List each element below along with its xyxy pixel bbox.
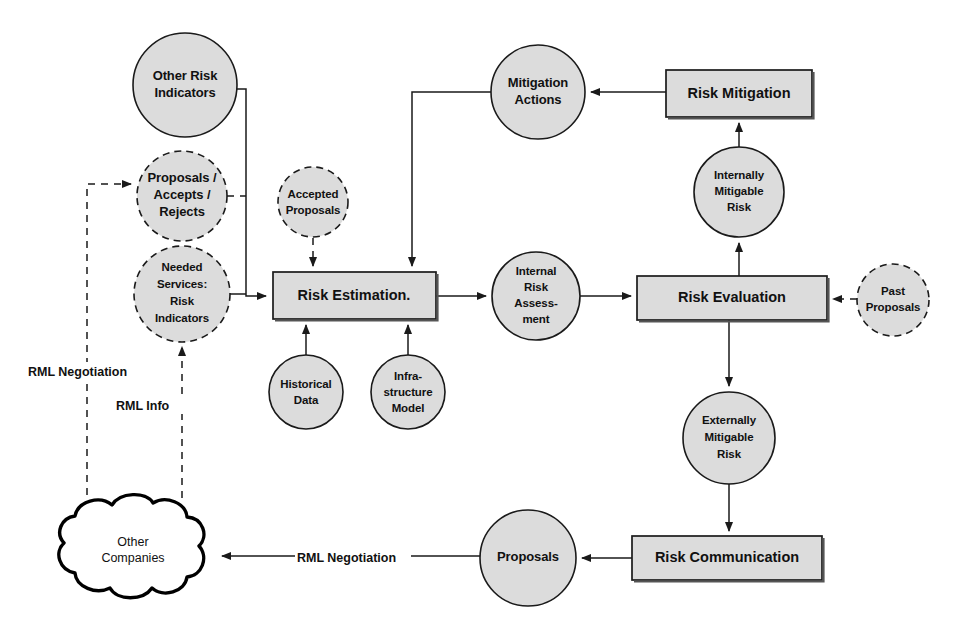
proposals-label: Proposals xyxy=(497,549,559,564)
proposals-accepts-rejects-label-line-2: Accepts / xyxy=(154,187,211,202)
node-risk-estimation[interactable]: Risk Estimation. xyxy=(273,272,438,321)
accepted-proposals-label-line-1: Accepted xyxy=(288,188,339,200)
rml-negotiation-left-label: RML Negotiation xyxy=(28,365,127,379)
needed-services-label-line-2: Services: xyxy=(157,278,207,290)
mitigation-actions-label-line-2: Actions xyxy=(515,92,562,107)
other-companies-label-line-1: Other xyxy=(117,535,148,549)
risk-evaluation-label: Risk Evaluation xyxy=(678,289,786,305)
historical-data-label-line-1: Historical xyxy=(280,378,331,390)
risk-mitigation-label: Risk Mitigation xyxy=(687,85,790,101)
node-needed-services-risk-indicators[interactable]: Needed Services: Risk Indicators xyxy=(134,246,230,342)
needed-services-label-line-1: Needed xyxy=(162,261,203,273)
node-proposals-accepts-rejects[interactable]: Proposals / Accepts / Rejects xyxy=(137,151,227,241)
risk-communication-label: Risk Communication xyxy=(655,549,799,565)
past-proposals-circle[interactable] xyxy=(857,264,929,336)
mitigation-actions-label-line-1: Mitigation xyxy=(508,75,569,90)
other-companies-label-line-2: Companies xyxy=(101,551,164,565)
edge-other-companies-to-proposals-accepts-rejects xyxy=(87,184,131,495)
edge-mitigation-actions-to-risk-estimation xyxy=(412,92,491,266)
internal-risk-assessment-label-line-2: Risk xyxy=(524,281,549,293)
externally-mitigable-risk-label-line-3: Risk xyxy=(717,448,742,460)
node-accepted-proposals[interactable]: Accepted Proposals xyxy=(278,167,348,237)
internal-risk-assessment-label-line-1: Internal xyxy=(516,265,557,277)
rml-info-label: RML Info xyxy=(116,399,170,413)
past-proposals-label-line-2: Proposals xyxy=(866,301,921,313)
node-past-proposals[interactable]: Past Proposals xyxy=(857,264,929,336)
proposals-accepts-rejects-label-line-3: Rejects xyxy=(159,204,205,219)
internal-risk-assessment-label-line-4: ment xyxy=(522,313,549,325)
proposals-accepts-rejects-label-line-1: Proposals / xyxy=(148,170,217,185)
rml-negotiation-bottom-label: RML Negotiation xyxy=(297,551,396,565)
infrastructure-model-label-line-3: Model xyxy=(392,402,425,414)
internally-mitigable-risk-label-line-2: Mitigable xyxy=(715,185,764,197)
edge-other-risk-indicators-to-risk-estimation xyxy=(234,89,266,296)
other-risk-indicators-label-line-1: Other Risk xyxy=(153,68,219,83)
historical-data-circle[interactable] xyxy=(269,355,343,429)
node-risk-evaluation[interactable]: Risk Evaluation xyxy=(637,276,829,322)
internally-mitigable-risk-label-line-1: Internally xyxy=(714,169,765,181)
infrastructure-model-label-line-1: Infra- xyxy=(394,370,422,382)
historical-data-label-line-2: Data xyxy=(294,394,319,406)
needed-services-label-line-3: Risk xyxy=(170,295,195,307)
node-mitigation-actions[interactable]: Mitigation Actions xyxy=(491,45,585,139)
risk-management-diagram: Other Risk Indicators Proposals / Accept… xyxy=(0,0,964,628)
past-proposals-label-line-1: Past xyxy=(881,285,905,297)
externally-mitigable-risk-label-line-1: Externally xyxy=(702,414,757,426)
accepted-proposals-circle[interactable] xyxy=(278,167,348,237)
node-proposals[interactable]: Proposals xyxy=(480,510,576,606)
internally-mitigable-risk-label-line-3: Risk xyxy=(727,201,752,213)
node-risk-mitigation[interactable]: Risk Mitigation xyxy=(666,70,814,119)
externally-mitigable-risk-label-line-2: Mitigable xyxy=(705,431,754,443)
needed-services-label-line-4: Indicators xyxy=(155,312,209,324)
diagram-canvas: Other Risk Indicators Proposals / Accept… xyxy=(0,0,964,628)
node-internal-risk-assessment[interactable]: Internal Risk Assess- ment xyxy=(492,252,580,340)
infrastructure-model-label-line-2: structure xyxy=(384,386,433,398)
node-internally-mitigable-risk[interactable]: Internally Mitigable Risk xyxy=(694,147,784,237)
risk-estimation-label: Risk Estimation. xyxy=(298,287,411,303)
other-risk-indicators-label-line-2: Indicators xyxy=(154,85,215,100)
node-risk-communication[interactable]: Risk Communication xyxy=(632,536,824,582)
node-historical-data[interactable]: Historical Data xyxy=(269,355,343,429)
node-other-risk-indicators[interactable]: Other Risk Indicators xyxy=(133,33,237,137)
node-externally-mitigable-risk[interactable]: Externally Mitigable Risk xyxy=(683,392,775,484)
node-other-companies[interactable]: Other Companies xyxy=(59,495,204,598)
internal-risk-assessment-label-line-3: Assess- xyxy=(514,297,558,309)
accepted-proposals-label-line-2: Proposals xyxy=(286,204,341,216)
node-infrastructure-model[interactable]: Infra- structure Model xyxy=(371,355,445,429)
